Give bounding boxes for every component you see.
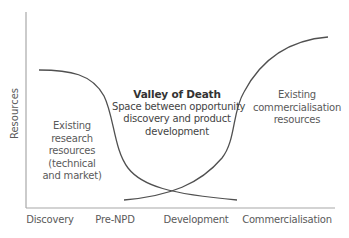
- valley-of-death-title: Valley of Death: [112, 88, 242, 101]
- annotation-line: research: [37, 133, 107, 146]
- annotation-line: Existing: [37, 120, 107, 133]
- annotation-line: resources: [37, 145, 107, 158]
- annotation-line: discovery and product: [112, 113, 242, 126]
- annotation-line: (technical: [37, 158, 107, 171]
- annotation-line: Existing: [252, 89, 342, 102]
- valley-of-death-annotation: Valley of Death Space between opportunit…: [112, 88, 242, 138]
- commercialisation-resources-annotation: Existing commercialisation resources: [252, 89, 342, 127]
- x-tick-discovery: Discovery: [26, 214, 74, 225]
- annotation-line: and market): [37, 170, 107, 183]
- annotation-line: commercialisation: [252, 102, 342, 115]
- annotation-line: resources: [252, 114, 342, 127]
- x-tick-development: Development: [163, 214, 228, 225]
- valley-of-death-diagram: Resources Discovery Pre-NPD Development …: [0, 0, 349, 238]
- research-resources-annotation: Existing research resources (technical a…: [37, 120, 107, 183]
- x-tick-pre-npd: Pre-NPD: [95, 214, 134, 225]
- annotation-line: development: [112, 126, 242, 139]
- annotation-line: Space between opportunity: [112, 101, 242, 114]
- y-axis-label: Resources: [9, 84, 20, 144]
- x-tick-commercialisation: Commercialisation: [242, 214, 332, 225]
